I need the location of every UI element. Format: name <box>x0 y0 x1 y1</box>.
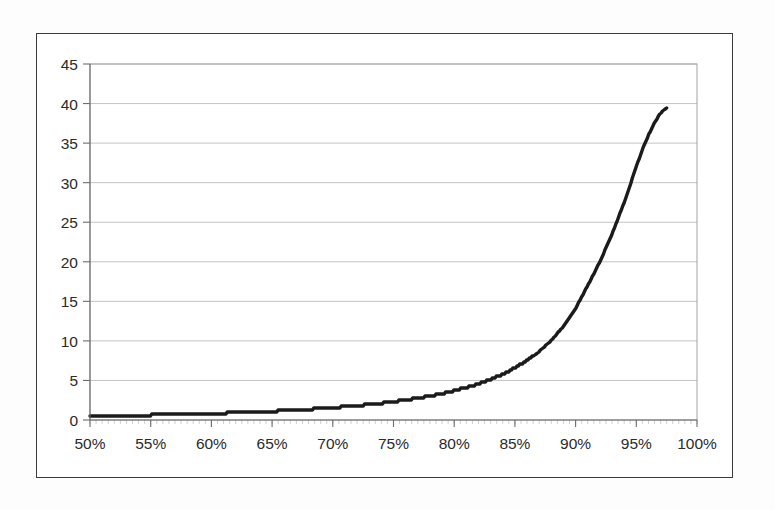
x-tick-label-65: 65% <box>257 435 288 452</box>
chart-figure: 051015202530354045 50%55%60%65%70%75%80%… <box>0 0 775 510</box>
plot-area-border <box>90 64 697 420</box>
x-tick-label-85: 85% <box>499 435 530 452</box>
y-tick-label-40: 40 <box>61 96 79 113</box>
y-tick-label-5: 5 <box>69 372 78 389</box>
axis-lines <box>90 64 697 420</box>
y-tick-label-25: 25 <box>61 214 78 231</box>
x-tick-label-60: 60% <box>196 435 227 452</box>
y-tick-label-20: 20 <box>61 254 79 271</box>
x-tick-label-70: 70% <box>317 435 348 452</box>
x-tick-label-100: 100% <box>677 435 717 452</box>
y-axis-tick-labels: 051015202530354045 <box>61 56 79 429</box>
x-tick-label-55: 55% <box>135 435 166 452</box>
x-tick-label-50: 50% <box>74 435 105 452</box>
x-tick-label-90: 90% <box>560 435 591 452</box>
x-tick-label-95: 95% <box>621 435 652 452</box>
x-tick-label-80: 80% <box>439 435 470 452</box>
x-tick-label-75: 75% <box>378 435 409 452</box>
gridlines <box>90 64 697 380</box>
chart-canvas: 051015202530354045 50%55%60%65%70%75%80%… <box>0 0 775 510</box>
y-tick-label-15: 15 <box>61 293 78 310</box>
y-tick-label-0: 0 <box>69 412 78 429</box>
y-tick-label-10: 10 <box>61 333 79 350</box>
y-tick-label-45: 45 <box>61 56 78 73</box>
y-axis-ticks <box>83 64 90 420</box>
y-tick-label-30: 30 <box>61 175 79 192</box>
x-axis-tick-labels: 50%55%60%65%70%75%80%85%90%95%100% <box>74 435 717 452</box>
y-tick-label-35: 35 <box>61 135 78 152</box>
